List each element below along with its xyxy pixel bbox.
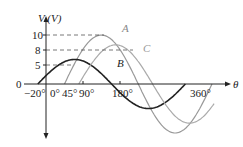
origin-label: 0 [16,78,22,90]
x-tick-360: 360° [190,87,211,99]
y-tick-8: 8 [35,44,41,56]
x-tick-180: 180° [112,87,133,99]
y-arrow-down-icon [44,133,49,139]
y-axis-label: V (V) [38,12,62,25]
x-tick-m20: −20° [24,87,46,99]
series-label-b: B [117,57,124,69]
y-tick-5: 5 [35,59,41,71]
x-axis-label: θ [233,78,239,90]
x-tick-0: 0° [50,87,60,99]
x-arrow-icon [225,82,231,87]
series-label-a: A [121,22,129,34]
y-tick-10: 10 [32,29,44,41]
x-tick-90: 90° [79,87,94,99]
sine-chart: V (V) 10 8 5 0 −20° 0° 45° 90° 180° 360°… [0,0,243,147]
x-tick-45: 45° [62,87,77,99]
series-label-c: C [143,42,151,54]
